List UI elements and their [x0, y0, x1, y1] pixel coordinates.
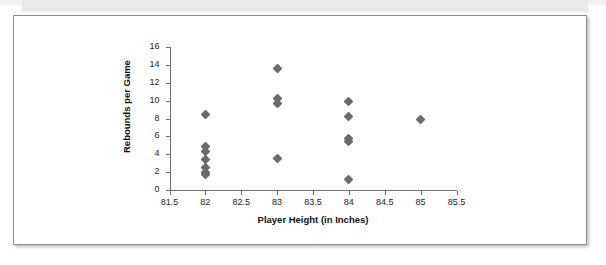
x-axis-tick [241, 191, 242, 195]
x-axis-tick [277, 191, 278, 195]
y-axis-tick-label: 0 [134, 185, 160, 194]
x-axis-tick-label: 85.5 [437, 198, 477, 207]
x-axis-tick-label: 84 [329, 198, 369, 207]
y-axis-tick [166, 47, 170, 48]
y-axis-tick-label: 8 [134, 114, 160, 123]
data-point-marker [272, 63, 282, 73]
x-axis-tick-label: 82.5 [221, 198, 261, 207]
y-axis-tick-label: 16 [134, 42, 160, 51]
y-axis-tick-label: 4 [134, 149, 160, 158]
data-point-marker [344, 174, 354, 184]
y-axis-tick [166, 119, 170, 120]
chart-page: 024681012141681.58282.58383.58484.58585.… [0, 0, 606, 265]
x-axis-tick [313, 191, 314, 195]
y-axis-tick [166, 154, 170, 155]
y-axis-tick [166, 83, 170, 84]
y-axis-tick [166, 172, 170, 173]
y-axis-tick [166, 101, 170, 102]
x-axis-tick-label: 82 [185, 198, 225, 207]
scatter-plot: 024681012141681.58282.58383.58484.58585.… [0, 0, 606, 265]
x-axis-tick [349, 191, 350, 195]
x-axis-tick [385, 191, 386, 195]
x-axis-tick-label: 83 [257, 198, 297, 207]
y-axis-tick [166, 65, 170, 66]
x-axis-tick-label: 85 [401, 198, 441, 207]
x-axis-tick [170, 191, 171, 195]
x-axis-tick [205, 191, 206, 195]
data-point-marker [416, 114, 426, 124]
x-axis-tick-label: 84.5 [365, 198, 405, 207]
data-point-marker [272, 154, 282, 164]
y-axis-tick-label: 14 [134, 60, 160, 69]
data-point-marker [344, 112, 354, 122]
x-axis-title: Player Height (in Inches) [170, 214, 457, 225]
y-axis-line [170, 47, 171, 190]
x-axis-tick [421, 191, 422, 195]
data-point-marker [344, 97, 354, 107]
y-axis-tick-label: 10 [134, 96, 160, 105]
y-axis-tick [166, 190, 170, 191]
y-axis-tick-label: 6 [134, 131, 160, 140]
data-point-marker [200, 110, 210, 120]
y-axis-tick-label: 12 [134, 78, 160, 87]
x-axis-tick-label: 81.5 [150, 198, 190, 207]
y-axis-title: Rebounds per Game [121, 60, 132, 153]
x-axis-tick [457, 191, 458, 195]
y-axis-tick-label: 2 [134, 167, 160, 176]
y-axis-tick [166, 136, 170, 137]
x-axis-tick-label: 83.5 [293, 198, 333, 207]
